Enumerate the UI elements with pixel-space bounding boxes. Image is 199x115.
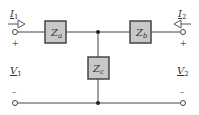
voltage-label-v1: V1	[10, 65, 22, 78]
current-arrow-left-icon	[174, 20, 191, 28]
voltage-label-v2: V2	[177, 65, 189, 78]
junction-dot-bottom	[96, 101, 100, 105]
current-arrow-right-icon	[8, 20, 25, 28]
current-label-i2: I2	[177, 8, 186, 21]
terminal-port2-bottom	[181, 101, 186, 106]
current-label-i1: I1	[9, 8, 18, 21]
terminal-port1-bottom	[13, 101, 18, 106]
terminal-port2-top	[181, 30, 186, 35]
minus-sign-port1: –	[12, 88, 16, 97]
plus-sign-port2: +	[180, 39, 187, 48]
impedance-zb: Zb	[130, 21, 151, 43]
terminal-port1-top	[13, 30, 18, 35]
junction-dot-top	[96, 30, 100, 34]
minus-sign-port2: –	[180, 88, 184, 97]
plus-sign-port1: +	[12, 39, 19, 48]
impedance-za: Za	[45, 21, 66, 43]
impedance-zc: Zc	[88, 57, 109, 79]
t-network-diagram: Za Zb Zc I1 I2 + + V1 V2 – –	[0, 0, 199, 115]
